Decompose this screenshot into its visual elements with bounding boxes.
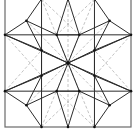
pattern-line-LU-M1 bbox=[5, 21, 26, 35]
pattern-line-T-O2 bbox=[68, 0, 79, 35]
vertex-BR bbox=[93, 126, 96, 129]
construction-line-RD-O3 bbox=[94, 50, 131, 91]
pattern-line-BL-M4 bbox=[26, 105, 41, 127]
pattern-line-B-O6 bbox=[57, 91, 68, 127]
construction-line-LD-O8 bbox=[5, 50, 42, 91]
pattern-line-RD-M3 bbox=[110, 91, 131, 105]
vertex-LU bbox=[4, 34, 7, 37]
vertex-B bbox=[67, 126, 70, 129]
pattern-line-RU-M2 bbox=[110, 21, 131, 35]
vertex-O1 bbox=[55, 34, 58, 37]
pattern-line-T-O1 bbox=[57, 0, 68, 35]
vertex-O4 bbox=[93, 75, 96, 78]
star-pattern-diagram bbox=[0, 0, 140, 140]
vertex-M2 bbox=[108, 19, 111, 22]
vertex-RD bbox=[130, 90, 133, 93]
pattern-line-LD-M4 bbox=[5, 91, 26, 105]
vertex-LD bbox=[4, 90, 7, 93]
construction-line-LU-O7 bbox=[5, 35, 42, 76]
vertex-M1 bbox=[25, 19, 28, 22]
pattern-line-B-O5 bbox=[68, 91, 79, 127]
vertex-M4 bbox=[25, 104, 28, 107]
vertex-C bbox=[66, 61, 70, 65]
pattern-line-TL-M1 bbox=[26, 0, 41, 21]
vertex-BL bbox=[40, 126, 43, 129]
vertex-O8 bbox=[40, 49, 43, 52]
pattern-line-TR-M2 bbox=[94, 0, 109, 21]
vertex-RU bbox=[130, 34, 133, 37]
vertex-O5 bbox=[78, 90, 81, 93]
vertex-O7 bbox=[40, 75, 43, 78]
vertex-O3 bbox=[93, 49, 96, 52]
pattern-line-BR-M3 bbox=[94, 105, 109, 127]
vertex-O2 bbox=[78, 34, 81, 37]
vertex-M3 bbox=[108, 104, 111, 107]
vertex-O6 bbox=[55, 90, 58, 93]
construction-line-RU-O4 bbox=[94, 35, 131, 76]
